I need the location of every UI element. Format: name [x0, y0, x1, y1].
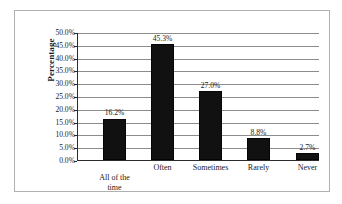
y-tick-mark-50 — [74, 33, 77, 34]
data-label-all-of-the-time: 16.2% — [105, 108, 125, 117]
gridline-45 — [77, 46, 319, 47]
gridline-50 — [77, 33, 319, 34]
y-tick-label-45: 45.0% — [41, 42, 75, 50]
x-label-rarely: Rarely — [231, 163, 287, 173]
y-tick-label-40: 40.0% — [41, 55, 75, 63]
y-tick-label-10: 10.0% — [41, 131, 75, 139]
gridline-35 — [77, 71, 319, 72]
y-tick-mark-40 — [74, 59, 77, 60]
data-label-never: 2.7% — [300, 143, 316, 152]
x-axis-line — [77, 160, 319, 161]
bar-never[interactable] — [296, 153, 319, 160]
y-tick-mark-10 — [74, 135, 77, 136]
x-label-all-of-the-time-line1: All of the — [99, 173, 130, 182]
y-axis-tick-labels: 50.0% 45.0% 40.0% 35.0% 30.0% 25.0% 20.0… — [41, 29, 75, 161]
bar-rarely[interactable] — [247, 138, 270, 161]
data-label-often: 45.3% — [153, 34, 173, 43]
chart-frame: Percentage 50.0% 45.0% 40.0% 35.0% 30.0%… — [14, 10, 330, 192]
y-tick-label-0: 0.0% — [41, 157, 75, 165]
y-tick-mark-45 — [74, 46, 77, 47]
y-tick-mark-35 — [74, 71, 77, 72]
y-tick-mark-30 — [74, 84, 77, 85]
gridline-25 — [77, 97, 319, 98]
bar-all-of-the-time[interactable] — [103, 119, 126, 161]
x-label-never: Never — [280, 163, 336, 173]
y-tick-mark-5 — [74, 148, 77, 149]
gridline-40 — [77, 59, 319, 60]
y-tick-label-5: 5.0% — [41, 144, 75, 152]
chart-screenshot: Percentage 50.0% 45.0% 40.0% 35.0% 30.0%… — [0, 0, 342, 204]
y-tick-mark-0 — [74, 161, 77, 162]
y-tick-label-50: 50.0% — [41, 29, 75, 37]
y-tick-label-30: 30.0% — [41, 80, 75, 88]
bar-often[interactable] — [151, 44, 174, 160]
plot-area: 16.2% 45.3% 27.0% 8.8% 2.7% — [77, 33, 319, 161]
y-tick-label-20: 20.0% — [41, 106, 75, 114]
y-tick-label-15: 15.0% — [41, 119, 75, 127]
y-tick-mark-15 — [74, 123, 77, 124]
plot-inner: 16.2% 45.3% 27.0% 8.8% 2.7% — [77, 33, 319, 161]
data-label-sometimes: 27.0% — [201, 81, 221, 90]
gridline-30 — [77, 84, 319, 85]
y-tick-label-35: 35.0% — [41, 67, 75, 75]
y-axis-line — [77, 33, 78, 161]
bar-sometimes[interactable] — [199, 91, 222, 160]
x-axis-category-labels: All of the time Often Sometimes Rarely N… — [77, 163, 319, 193]
y-tick-label-25: 25.0% — [41, 93, 75, 101]
y-tick-mark-25 — [74, 97, 77, 98]
x-label-all-of-the-time-line2: time — [87, 183, 143, 193]
y-tick-mark-20 — [74, 110, 77, 111]
data-label-rarely: 8.8% — [251, 128, 267, 137]
